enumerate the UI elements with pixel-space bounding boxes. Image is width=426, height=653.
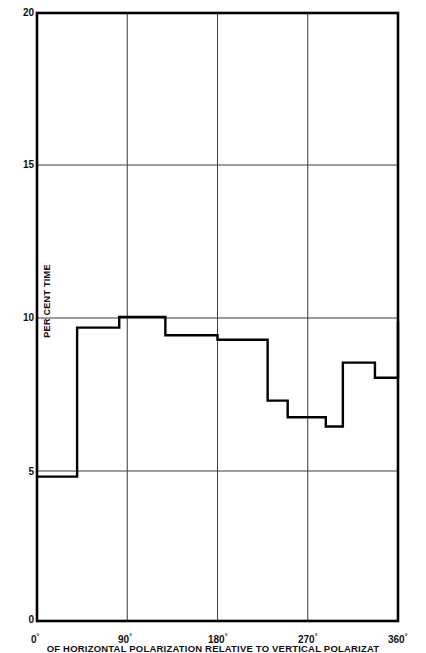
figure-caption: OF HORIZONTAL POLARIZATION RELATIVE TO V… (0, 643, 426, 653)
degree-symbol-icon: ° (37, 633, 40, 640)
degree-symbol-icon: ° (225, 633, 228, 640)
y-tick-5: 5 (4, 466, 34, 477)
degree-symbol-icon: ° (129, 633, 132, 640)
y-tick-15: 15 (4, 159, 34, 170)
y-tick-20: 20 (4, 7, 34, 18)
plot-area (0, 0, 426, 653)
degree-symbol-icon: ° (315, 633, 318, 640)
y-tick-labels: 20 15 10 5 0 (0, 0, 34, 653)
y-tick-10: 10 (4, 312, 34, 323)
figure-container: 20 15 10 5 0 PER CENT TIME 0° 90° 180 (0, 0, 426, 653)
y-axis-label: PER CENT TIME (42, 241, 52, 361)
degree-symbol-icon: ° (405, 633, 408, 640)
y-tick-0: 0 (4, 614, 34, 625)
